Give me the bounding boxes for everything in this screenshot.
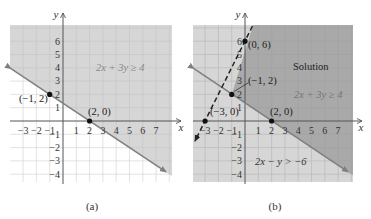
point-label-neg1-2-a: (−1, 2) xyxy=(19,93,48,105)
svg-text:2: 2 xyxy=(269,125,274,136)
svg-text:−2: −2 xyxy=(31,125,42,136)
svg-text:5: 5 xyxy=(309,125,314,136)
svg-text:−3: −3 xyxy=(200,125,211,136)
svg-text:−2: −2 xyxy=(231,142,242,153)
caption-b: (b) xyxy=(269,200,282,213)
figure: x y −3 −2 −1 1 2 3 4 5 6 7 6 5 4 3 2 1 −… xyxy=(0,0,371,219)
svg-text:3: 3 xyxy=(100,125,105,136)
svg-text:−4: −4 xyxy=(49,169,60,180)
svg-text:6: 6 xyxy=(55,36,60,47)
point-label-0-6-b: (0, 6) xyxy=(248,39,271,51)
svg-text:4: 4 xyxy=(114,125,119,136)
svg-text:5: 5 xyxy=(127,125,132,136)
svg-text:−3: −3 xyxy=(18,125,29,136)
svg-text:2: 2 xyxy=(87,125,92,136)
svg-text:4: 4 xyxy=(55,62,60,73)
svg-text:1: 1 xyxy=(256,125,261,136)
inequality-2-label-b: 2x − y > −6 xyxy=(255,156,307,167)
svg-text:−3: −3 xyxy=(231,155,242,166)
svg-text:6: 6 xyxy=(140,125,145,136)
svg-text:3: 3 xyxy=(282,125,287,136)
svg-text:−1: −1 xyxy=(49,129,60,140)
point-neg1-2-a xyxy=(47,92,52,97)
svg-text:1: 1 xyxy=(55,102,60,113)
svg-text:7: 7 xyxy=(154,125,159,136)
svg-text:−1: −1 xyxy=(231,129,242,140)
svg-text:3: 3 xyxy=(237,75,242,86)
caption-a: (a) xyxy=(86,200,99,213)
point-label-neg3-0-b: (−3, 0) xyxy=(210,106,239,118)
svg-text:1: 1 xyxy=(74,125,79,136)
point-2-0-a xyxy=(87,118,92,123)
inequality-label-a: 2x + 3y ≥ 4 xyxy=(96,62,145,73)
point-neg1-2-b xyxy=(229,92,234,97)
x-axis-label-a: x xyxy=(178,121,184,133)
panel-b: x y −3 −2 −1 1 2 3 4 5 6 7 6 5 4 3 2 1 −… xyxy=(193,8,364,213)
inequality-1-label-b: 2x + 3y ≥ 4 xyxy=(294,89,343,100)
svg-text:−3: −3 xyxy=(49,155,60,166)
point-label-2-0-b: (2, 0) xyxy=(270,106,293,118)
svg-text:2: 2 xyxy=(55,89,60,100)
point-0-6-b xyxy=(242,39,247,44)
point-2-0-b xyxy=(269,118,274,123)
svg-text:5: 5 xyxy=(55,49,60,60)
point-label-neg1-2-b: (−1, 2) xyxy=(248,75,277,87)
svg-text:6: 6 xyxy=(237,36,242,47)
svg-text:−4: −4 xyxy=(231,169,242,180)
point-neg3-0-b xyxy=(203,118,208,123)
svg-text:−2: −2 xyxy=(213,125,224,136)
solution-label-b: Solution xyxy=(293,61,329,72)
panel-a: x y −3 −2 −1 1 2 3 4 5 6 7 6 5 4 3 2 1 −… xyxy=(10,8,184,213)
svg-text:3: 3 xyxy=(55,75,60,86)
x-axis-label-b: x xyxy=(358,121,364,133)
svg-text:7: 7 xyxy=(336,125,341,136)
y-axis-label-b: y xyxy=(235,8,241,20)
svg-text:2: 2 xyxy=(237,89,242,100)
svg-text:4: 4 xyxy=(237,62,242,73)
svg-text:4: 4 xyxy=(296,125,301,136)
point-label-2-0-a: (2, 0) xyxy=(88,106,111,118)
svg-text:−2: −2 xyxy=(49,142,60,153)
svg-text:6: 6 xyxy=(322,125,327,136)
y-axis-label-a: y xyxy=(53,8,59,20)
svg-text:5: 5 xyxy=(237,49,242,60)
